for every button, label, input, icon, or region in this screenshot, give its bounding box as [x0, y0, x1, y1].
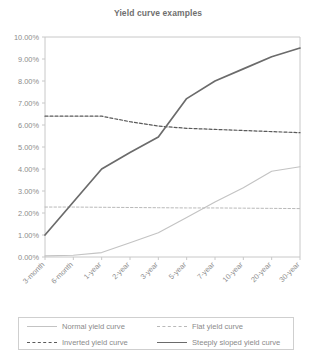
x-tick-label: 2-year	[110, 260, 132, 282]
x-axis-ticks: 3-month6-month1-year2-year3-year5-year7-…	[21, 257, 302, 286]
chart-title: Yield curve examples	[0, 8, 316, 18]
legend-swatch-flat	[157, 323, 187, 329]
legend-swatch-steeply-sloped	[157, 339, 187, 345]
y-axis-ticks: 0.00%1.00%2.00%3.00%4.00%5.00%6.00%7.00%…	[14, 33, 45, 262]
x-tick-label: 6-month	[49, 260, 75, 286]
chart-figure: Yield curve examples 0.00%1.00%2.00%3.00…	[0, 0, 316, 363]
x-tick-label: 1-year	[82, 260, 104, 282]
x-tick-label: 3-year	[139, 260, 161, 282]
x-tick-label: 7-year	[195, 260, 217, 282]
y-tick-label: 5.00%	[18, 143, 39, 152]
legend-label-normal: Normal yield curve	[62, 322, 125, 331]
y-tick-label: 10.00%	[14, 33, 39, 42]
series-line-flat-yield-curve	[45, 207, 300, 209]
x-tick-label: 20-year	[249, 260, 273, 284]
y-tick-label: 4.00%	[18, 165, 39, 174]
y-tick-label: 1.00%	[18, 231, 39, 240]
series-line-normal-yield-curve	[45, 167, 300, 256]
y-tick-label: 7.00%	[18, 99, 39, 108]
legend-swatch-normal	[27, 323, 57, 329]
legend-item-inverted-yield-curve: Inverted yield curve	[21, 338, 151, 347]
chart-legend: Normal yield curve Flat yield curve Inve…	[18, 317, 294, 350]
x-tick-label: 3-month	[21, 260, 47, 286]
legend-item-normal-yield-curve: Normal yield curve	[21, 322, 151, 331]
data-series-group	[45, 48, 300, 256]
y-tick-label: 3.00%	[18, 187, 39, 196]
legend-item-steeply-sloped-yield-curve: Steeply sloped yield curve	[151, 338, 297, 347]
yield-curve-plot: 0.00%1.00%2.00%3.00%4.00%5.00%6.00%7.00%…	[0, 20, 316, 310]
x-tick-label: 5-year	[167, 260, 189, 282]
x-tick-label: 10-year	[221, 260, 245, 284]
y-tick-label: 6.00%	[18, 121, 39, 130]
legend-label-flat: Flat yield curve	[192, 322, 243, 331]
y-tick-label: 2.00%	[18, 209, 39, 218]
y-tick-label: 8.00%	[18, 77, 39, 86]
legend-swatch-inverted	[27, 339, 57, 345]
legend-item-flat-yield-curve: Flat yield curve	[151, 322, 297, 331]
plot-axes	[45, 37, 300, 257]
legend-label-inverted: Inverted yield curve	[62, 338, 128, 347]
y-tick-label: 0.00%	[18, 253, 39, 262]
x-tick-label: 30-year	[277, 260, 301, 284]
legend-label-steeply-sloped: Steeply sloped yield curve	[192, 338, 280, 347]
y-tick-label: 9.00%	[18, 55, 39, 64]
